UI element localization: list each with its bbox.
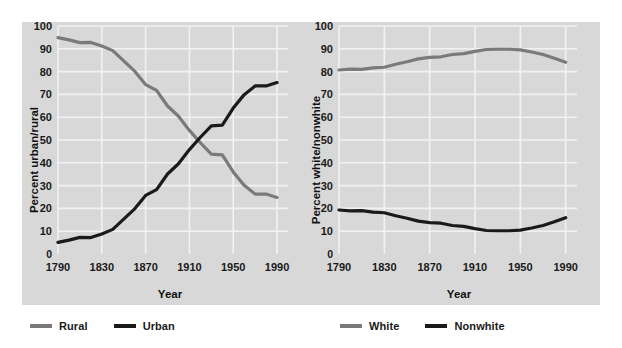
legend-swatch-urban [114, 324, 136, 328]
x-tick-label: 1990 [553, 261, 577, 273]
legend-swatch-white [340, 324, 362, 328]
y-tick-label: 100 [34, 20, 52, 32]
legend-label-rural: Rural [59, 320, 88, 332]
urban-rural-legend: Rural Urban [30, 316, 201, 336]
y-tick-label: 20 [321, 202, 333, 214]
figure-root: 0102030405060708090100 17901830187019101… [0, 0, 622, 348]
y-tick-label: 10 [40, 225, 52, 237]
x-tick-label: 1950 [508, 261, 532, 273]
legend-item-white[interactable]: White [340, 320, 399, 332]
y-tick-label: 90 [40, 43, 52, 55]
y-tick-label: 50 [321, 134, 333, 146]
legend-label-urban: Urban [143, 320, 175, 332]
y-tick-label: 0 [327, 248, 333, 260]
y-tick-label: 10 [321, 225, 333, 237]
y-axis-title-left: Percent urban/rural [28, 107, 40, 213]
x-tick-label: 1910 [463, 261, 487, 273]
x-tick-label: 1870 [417, 261, 441, 273]
legend-item-urban[interactable]: Urban [114, 320, 175, 332]
legend-item-nonwhite[interactable]: Nonwhite [425, 320, 504, 332]
legend-item-rural[interactable]: Rural [30, 320, 88, 332]
series-line-nonwhite [339, 210, 566, 231]
y-tick-label: 30 [321, 180, 333, 192]
white-nonwhite-legend: White Nonwhite [340, 316, 531, 336]
y-tick-label: 20 [40, 202, 52, 214]
y-tick-label: 0 [46, 248, 52, 260]
legend-label-white: White [369, 320, 399, 332]
x-tick-label: 1790 [327, 261, 351, 273]
x-tick-labels-right: 179018301870191019501990 [327, 261, 578, 273]
y-tick-label: 60 [40, 111, 52, 123]
x-tick-labels-left: 179018301870191019501990 [46, 261, 290, 273]
x-tick-label: 1790 [46, 261, 70, 273]
x-tick-label: 1870 [133, 261, 157, 273]
y-tick-label: 80 [321, 66, 333, 78]
x-axis-title-right: Year [447, 288, 472, 300]
y-tick-label: 40 [40, 157, 52, 169]
x-tick-label: 1950 [221, 261, 245, 273]
y-tick-label: 80 [40, 66, 52, 78]
x-tick-label: 1910 [177, 261, 201, 273]
chart-white-nonwhite: 0102030405060708090100 17901830187019101… [289, 0, 578, 283]
legend-label-nonwhite: Nonwhite [454, 320, 504, 332]
chart-urban-rural: 0102030405060708090100 17901830187019101… [0, 0, 289, 283]
chart-white-nonwhite-svg: 0102030405060708090100 17901830187019101… [289, 0, 600, 310]
grid-horizontal-left [58, 26, 288, 231]
x-tick-label: 1990 [265, 261, 289, 273]
y-tick-label: 60 [321, 111, 333, 123]
y-tick-label: 90 [321, 43, 333, 55]
legend-swatch-nonwhite [425, 324, 447, 328]
y-tick-label: 100 [315, 20, 333, 32]
series-line-white [339, 49, 566, 70]
x-tick-label: 1830 [372, 261, 396, 273]
chart-urban-rural-svg: 0102030405060708090100 17901830187019101… [0, 0, 311, 310]
grid-horizontal-right [339, 26, 577, 231]
x-tick-label: 1830 [90, 261, 114, 273]
y-tick-label: 70 [40, 88, 52, 100]
y-tick-label: 40 [321, 157, 333, 169]
y-tick-label: 70 [321, 88, 333, 100]
y-tick-label: 30 [40, 180, 52, 192]
y-tick-label: 50 [40, 134, 52, 146]
y-axis-title-right: Percent white/nonwhite [310, 96, 322, 224]
legend-swatch-rural [30, 324, 52, 328]
x-axis-title-left: Year [158, 288, 183, 300]
